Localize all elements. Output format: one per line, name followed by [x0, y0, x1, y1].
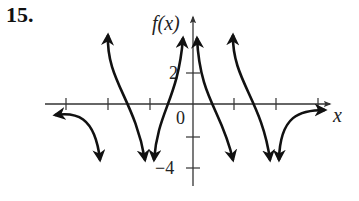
curve-branch-1 [55, 114, 100, 160]
curve [55, 35, 325, 160]
y-axis-label: f(x) [152, 12, 180, 35]
curve-branch-4 [197, 38, 233, 160]
x-axis-label: x [332, 104, 342, 126]
y-tick-label-neg4: −4 [155, 158, 174, 178]
curve-branch-2 [108, 35, 145, 160]
curve-branch-3 [154, 38, 183, 160]
x-axis [45, 98, 330, 110]
curve-branch-5 [233, 35, 270, 160]
curve-branch-6 [279, 110, 325, 160]
function-graph: f(x) x 0 2 −4 [0, 0, 359, 201]
origin-label: 0 [176, 108, 185, 128]
